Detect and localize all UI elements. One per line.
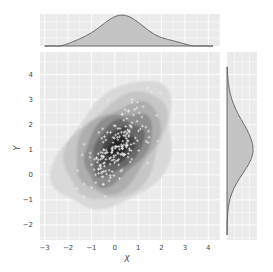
x-tick-label: −1 — [86, 244, 96, 252]
y-tick-label: 1 — [29, 146, 33, 154]
y-axis-ticks: −2−101234 — [23, 71, 34, 229]
x-axis-label: X — [123, 255, 130, 264]
x-tick-label: 0 — [113, 244, 117, 252]
y-tick-label: 2 — [29, 121, 33, 129]
x-tick-label: 4 — [206, 244, 211, 252]
x-tick-label: −2 — [63, 244, 73, 252]
y-tick-label: 0 — [29, 171, 33, 179]
y-tick-label: 4 — [29, 71, 34, 79]
y-tick-label: −1 — [23, 196, 33, 204]
x-tick-label: 3 — [183, 244, 187, 252]
y-tick-label: −2 — [23, 221, 33, 229]
x-tick-label: 1 — [136, 244, 140, 252]
x-tick-label: −3 — [40, 244, 50, 252]
x-axis-ticks: −3−2−101234 — [40, 244, 212, 252]
y-axis-label: Y — [13, 144, 22, 150]
main-kde-panel — [40, 52, 220, 240]
right-marginal-panel — [227, 52, 257, 240]
top-marginal-panel — [40, 14, 220, 46]
x-tick-label: 2 — [159, 244, 163, 252]
joint-kde-chart: −3−2−101234 −2−101234 X Y — [0, 0, 273, 272]
y-tick-label: 3 — [29, 96, 33, 104]
